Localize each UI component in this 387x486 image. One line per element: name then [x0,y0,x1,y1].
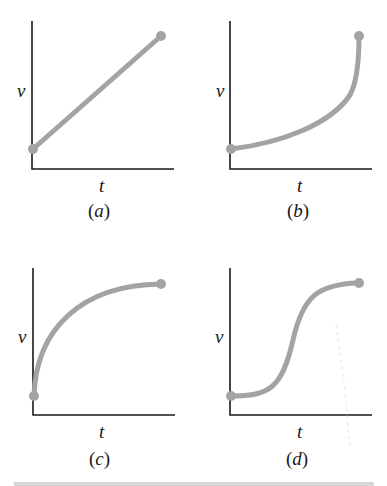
panel-a: v t (a) [17,21,174,222]
start-point-d [226,391,236,401]
y-axis-label-a: v [17,80,26,101]
x-axis-label-b: t [297,175,303,196]
panel-b: v t (b) [216,21,372,222]
x-axis-label-c: t [99,421,105,442]
start-point-c [29,391,39,401]
curve-a [33,36,161,149]
y-axis-label-b: v [216,80,225,101]
cut-off-text-fragment [14,482,374,486]
start-point-b [226,144,236,154]
curve-d [231,283,359,396]
curve-c [34,284,161,396]
caption-d: (d) [286,448,308,470]
caption-b: (b) [287,200,309,222]
y-axis-label-d: v [215,326,224,347]
panel-c: v t (c) [18,268,175,470]
x-axis-label-d: t [297,421,303,442]
curve-b [231,36,359,149]
start-point-a [28,144,38,154]
velocity-time-graphs-figure: v t (a) v t (b) v t (c) v t (d) [0,0,387,486]
panel-d: v t (d) [215,268,372,470]
scan-artifact [336,325,350,450]
end-point-d [354,278,364,288]
end-point-c [156,279,166,289]
x-axis-label-a: t [99,175,105,196]
axes-c [33,268,175,415]
end-point-b [354,31,364,41]
end-point-a [156,31,166,41]
caption-c: (c) [89,448,110,470]
caption-a: (a) [88,200,110,222]
y-axis-label-c: v [18,326,27,347]
